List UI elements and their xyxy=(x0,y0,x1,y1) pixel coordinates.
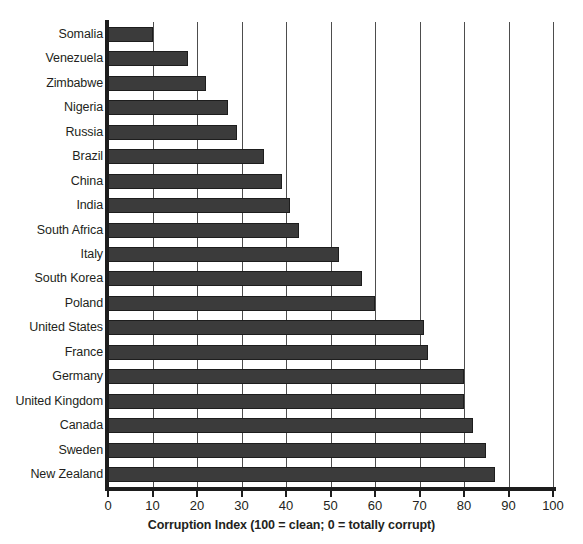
x-tick-label: 0 xyxy=(88,498,128,514)
bar xyxy=(108,51,188,66)
category-label: China xyxy=(0,175,103,188)
bar xyxy=(108,418,473,433)
bar xyxy=(108,223,299,238)
gridline-60 xyxy=(375,22,376,487)
gridline-70 xyxy=(420,22,421,487)
category-label: Canada xyxy=(0,419,103,432)
category-label: France xyxy=(0,346,103,359)
category-label: Nigeria xyxy=(0,101,103,114)
x-tick-label: 10 xyxy=(133,498,173,514)
category-label: Poland xyxy=(0,297,103,310)
bar xyxy=(108,394,464,409)
x-tick-label: 70 xyxy=(400,498,440,514)
x-tick-60 xyxy=(374,491,376,497)
bar xyxy=(108,345,428,360)
category-label: Germany xyxy=(0,370,103,383)
category-label: South Africa xyxy=(0,224,103,237)
bar xyxy=(108,320,424,335)
x-tick-label: 60 xyxy=(355,498,395,514)
bar xyxy=(108,76,206,91)
x-tick-label: 40 xyxy=(266,498,306,514)
bar xyxy=(108,247,339,262)
category-label: Russia xyxy=(0,126,103,139)
x-tick-40 xyxy=(285,491,287,497)
category-axis-labels: SomaliaVenezuelaZimbabweNigeriaRussiaBra… xyxy=(0,22,103,487)
category-label: Sweden xyxy=(0,444,103,457)
x-tick-label: 20 xyxy=(177,498,217,514)
category-label: India xyxy=(0,199,103,212)
bar xyxy=(108,198,290,213)
gridline-80 xyxy=(464,22,465,487)
bar xyxy=(108,149,264,164)
bar xyxy=(108,174,282,189)
category-label: Brazil xyxy=(0,150,103,163)
x-tick-label: 90 xyxy=(489,498,529,514)
category-label: New Zealand xyxy=(0,468,103,481)
bar xyxy=(108,296,375,311)
bar xyxy=(108,369,464,384)
bar xyxy=(108,467,495,482)
x-tick-20 xyxy=(196,491,198,497)
bar xyxy=(108,27,153,42)
x-tick-50 xyxy=(330,491,332,497)
bar xyxy=(108,125,237,140)
category-label: Somalia xyxy=(0,28,103,41)
bar xyxy=(108,443,486,458)
bar xyxy=(108,271,362,286)
x-axis-title: Corruption Index (100 = clean; 0 = total… xyxy=(0,518,583,532)
x-tick-30 xyxy=(241,491,243,497)
x-tick-80 xyxy=(463,491,465,497)
category-label: United States xyxy=(0,321,103,334)
y-axis-line xyxy=(105,20,109,489)
x-tick-0 xyxy=(107,491,109,497)
x-tick-100 xyxy=(552,491,554,497)
category-label: Italy xyxy=(0,248,103,261)
x-tick-70 xyxy=(419,491,421,497)
plot-area xyxy=(108,22,553,487)
gridline-100 xyxy=(553,22,554,487)
category-label: Zimbabwe xyxy=(0,77,103,90)
category-label: United Kingdom xyxy=(0,395,103,408)
corruption-index-bar-chart: SomaliaVenezuelaZimbabweNigeriaRussiaBra… xyxy=(0,0,583,544)
x-tick-label: 100 xyxy=(533,498,573,514)
category-label: South Korea xyxy=(0,272,103,285)
x-tick-90 xyxy=(508,491,510,497)
x-tick-label: 30 xyxy=(222,498,262,514)
category-label: Venezuela xyxy=(0,52,103,65)
bar xyxy=(108,100,228,115)
x-tick-label: 80 xyxy=(444,498,484,514)
x-tick-label: 50 xyxy=(311,498,351,514)
gridline-90 xyxy=(509,22,510,487)
x-tick-10 xyxy=(152,491,154,497)
